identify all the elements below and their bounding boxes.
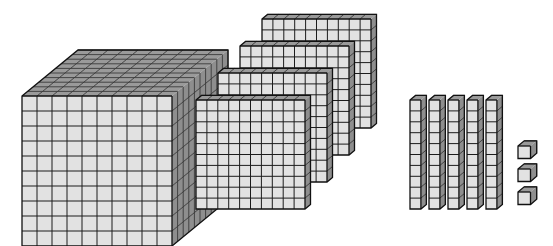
ones-unit-3-front-fill <box>518 192 531 205</box>
tens-rod-4-right-face <box>478 95 484 209</box>
tens-rod-1-right-face <box>421 95 427 209</box>
tens-rod-1 <box>410 95 426 209</box>
hundreds-flat-2-right-face <box>327 68 333 182</box>
ones-unit-1-front-face <box>518 146 531 159</box>
ones-unit-3 <box>518 187 537 205</box>
hundreds-flat-3-right-face <box>349 41 355 155</box>
tens-rod-5-right-face <box>497 95 503 209</box>
tens-rod-3-front-face <box>448 100 459 209</box>
thousands-cube-front-face <box>22 96 172 246</box>
ones-unit-1 <box>518 141 537 159</box>
hundreds-flat-2-top-face <box>218 68 333 73</box>
tens-rod-3 <box>448 95 464 209</box>
tens-rod-2-front-face <box>429 100 440 209</box>
tens-rod-2-right-face <box>440 95 446 209</box>
hundreds-flat-4-top-face <box>262 14 377 19</box>
tens-rod-4-front-face <box>467 100 478 209</box>
ones-unit-2 <box>518 164 537 182</box>
tens-rods-group <box>410 95 502 209</box>
ones-unit-2-front-face <box>518 169 531 182</box>
base-ten-blocks-figure <box>0 0 553 246</box>
tens-rod-1-front-face <box>410 100 421 209</box>
base-ten-blocks-canvas <box>0 0 553 246</box>
hundreds-flat-1-right-face <box>305 95 311 209</box>
ones-unit-1-front-fill <box>518 146 531 159</box>
tens-rod-3-right-face <box>459 95 465 209</box>
hundreds-flat-1-top-face <box>196 95 311 100</box>
hundreds-flat-4-right-face <box>371 14 377 128</box>
hundreds-flat-1 <box>196 95 311 209</box>
tens-rod-5-front-face <box>486 100 497 209</box>
ones-unit-3-front-face <box>518 192 531 205</box>
tens-rod-5 <box>486 95 502 209</box>
tens-rod-2 <box>429 95 445 209</box>
tens-rod-4 <box>467 95 483 209</box>
hundreds-flat-3-top-face <box>240 41 355 46</box>
ones-unit-2-front-fill <box>518 169 531 182</box>
ones-units-group <box>518 141 537 205</box>
hundreds-flat-1-front-face <box>196 100 305 209</box>
